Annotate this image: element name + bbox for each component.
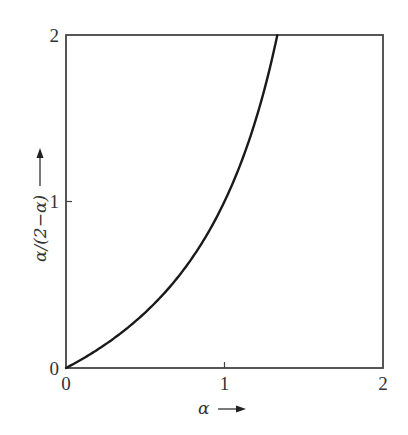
- data-curve: [66, 35, 277, 368]
- x-axis-arrow-icon: [236, 406, 246, 413]
- y-tick-label-2: 2: [50, 25, 60, 46]
- y-axis-arrow-icon: [37, 148, 44, 158]
- x-axis-label-text: α: [198, 398, 210, 418]
- x-axis-label: α: [198, 398, 246, 418]
- y-tick-label-1: 1: [50, 191, 60, 212]
- x-tick-label-0: 0: [61, 373, 71, 394]
- y-axis-label: α/(2−α): [30, 148, 50, 262]
- chart: 0 1 2 0 1 2 α α/(2−α): [0, 0, 408, 435]
- x-tick-label-1: 1: [220, 373, 230, 394]
- y-axis-label-text: α/(2−α): [30, 195, 50, 262]
- y-tick-label-0: 0: [50, 358, 60, 379]
- x-tick-label-2: 2: [378, 373, 388, 394]
